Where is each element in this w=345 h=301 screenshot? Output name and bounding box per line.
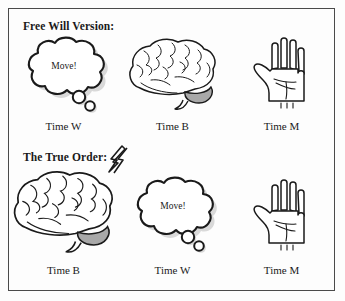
figure-frame: Free Will Version: <box>8 8 335 291</box>
thought-bubble-text-2: Move! <box>160 201 185 211</box>
brain-icon <box>9 169 119 259</box>
row-heading-true-order: The True Order: <box>23 151 107 163</box>
panel-caption-time-b-2: Time B <box>47 264 80 276</box>
thought-bubble-icon: Move! <box>14 37 114 115</box>
thought-bubble-text: Move! <box>51 61 76 71</box>
hand-icon <box>246 37 318 115</box>
panel-brain-time-b: Time B <box>118 37 227 132</box>
panel-caption-time-m-2: Time M <box>264 264 299 276</box>
row-heading-free-will: Free Will Version: <box>23 20 114 32</box>
brain-art <box>125 37 221 115</box>
panel-hand-time-m: Time M <box>227 37 336 132</box>
panel-brain-time-b-2: Time B <box>9 169 118 276</box>
thought-bubble-art: Move! <box>14 37 114 115</box>
panel-caption-time-w: Time W <box>46 120 82 132</box>
panel-group-true-order: Time B M <box>9 169 336 276</box>
hand-icon <box>246 177 318 259</box>
thought-bubble-icon: Move! <box>123 173 223 259</box>
hand-art-2 <box>246 169 318 259</box>
panel-caption-time-b: Time B <box>156 120 189 132</box>
panel-thought-time-w-2: Move! Time W <box>118 169 227 276</box>
figure-row-true-order: The True Order: <box>9 143 336 291</box>
panel-caption-time-w-2: Time W <box>155 264 191 276</box>
panel-group-free-will: Move! Time W <box>9 37 336 132</box>
panel-thought-time-w: Move! Time W <box>9 37 118 132</box>
hand-art <box>246 37 318 115</box>
thought-bubble-art-2: Move! <box>123 169 223 259</box>
figure-row-free-will: Free Will Version: <box>9 9 336 143</box>
panel-caption-time-m: Time M <box>264 120 299 132</box>
brain-icon <box>125 37 221 115</box>
panel-hand-time-m-2: Time M <box>227 169 336 276</box>
libet-experiment-figure: Free Will Version: <box>0 0 345 301</box>
brain-art-2 <box>9 169 119 259</box>
